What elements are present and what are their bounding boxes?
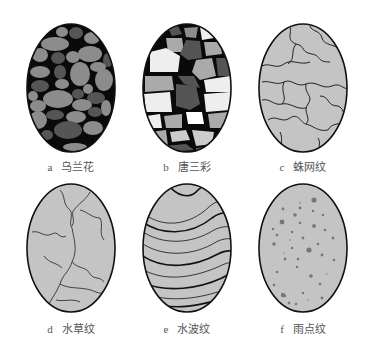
caption-c-name: 蛛网纹 (293, 161, 326, 174)
caption-c: c蛛网纹 (280, 158, 327, 174)
caption-c-letter: c (280, 161, 285, 173)
caption-b-name: 唐三彩 (178, 161, 211, 174)
stone-pattern-figure (0, 0, 369, 354)
caption-b-letter: b (163, 161, 169, 173)
caption-d-letter: d (47, 323, 53, 335)
caption-a-name: 乌兰花 (61, 161, 94, 174)
caption-b: b唐三彩 (163, 158, 211, 174)
caption-d: d水草纹 (47, 320, 95, 336)
caption-a: a乌兰花 (48, 158, 95, 174)
caption-f-letter: f (280, 323, 284, 335)
caption-f: f雨点纹 (280, 320, 326, 336)
caption-e: e水波纹 (164, 320, 211, 336)
caption-a-letter: a (48, 161, 53, 173)
caption-f-name: 雨点纹 (293, 323, 326, 336)
caption-d-name: 水草纹 (62, 323, 95, 336)
panel-e-water-waves (140, 184, 234, 312)
caption-e-name: 水波纹 (177, 323, 210, 336)
caption-e-letter: e (164, 323, 169, 335)
